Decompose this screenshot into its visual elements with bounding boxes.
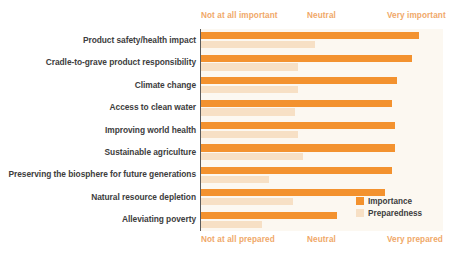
bar-preparedness: [201, 176, 269, 183]
bar-preparedness: [201, 131, 298, 138]
grouped-bar-chart: Not at all important Neutral Very import…: [0, 0, 455, 258]
top-axis-label-left: Not at all important: [201, 11, 278, 20]
category-label: Alleviating poverty: [0, 214, 196, 224]
legend-swatch-preparedness-icon: [356, 209, 364, 217]
bar-preparedness: [201, 198, 293, 205]
bar-preparedness: [201, 86, 298, 93]
legend-item-preparedness: Preparedness: [356, 208, 448, 218]
value-axis-line: [200, 29, 201, 231]
bar-preparedness: [201, 221, 262, 228]
bar-importance: [201, 32, 419, 39]
bar-preparedness: [201, 153, 303, 160]
bar-importance: [201, 55, 412, 62]
legend-item-importance: Importance: [356, 196, 448, 206]
category-label: Cradle-to-grave product responsibility: [0, 57, 196, 67]
category-label-column: Product safety/health impactCradle-to-gr…: [0, 29, 196, 231]
category-label: Product safety/health impact: [0, 35, 196, 45]
category-label: Natural resource depletion: [0, 192, 196, 202]
category-label: Climate change: [0, 80, 196, 90]
category-label: Sustainable agriculture: [0, 147, 196, 157]
top-axis-captions: Not at all important Neutral Very import…: [201, 11, 443, 25]
bottom-axis-label-mid: Neutral: [307, 235, 336, 244]
bar-importance: [201, 100, 392, 107]
bar-importance: [201, 77, 397, 84]
bottom-axis-captions: Not at all prepared Neutral Very prepare…: [201, 235, 443, 249]
bar-importance: [201, 212, 337, 219]
bottom-axis-label-left: Not at all prepared: [201, 235, 275, 244]
bar-importance: [201, 167, 392, 174]
category-label: Preserving the biosphere for future gene…: [0, 169, 196, 179]
bar-importance: [201, 144, 395, 151]
bar-preparedness: [201, 41, 315, 48]
bar-preparedness: [201, 108, 295, 115]
bottom-axis-label-right: Very prepared: [387, 235, 443, 244]
legend-swatch-importance-icon: [356, 197, 364, 205]
category-label: Access to clean water: [0, 102, 196, 112]
legend-label-importance: Importance: [368, 197, 412, 206]
top-axis-label-right: Very important: [387, 11, 446, 20]
bar-importance: [201, 122, 395, 129]
bar-preparedness: [201, 63, 298, 70]
chart-legend: Importance Preparedness: [356, 196, 448, 220]
category-label: Improving world health: [0, 125, 196, 135]
top-axis-label-mid: Neutral: [307, 11, 336, 20]
legend-label-preparedness: Preparedness: [368, 209, 422, 218]
